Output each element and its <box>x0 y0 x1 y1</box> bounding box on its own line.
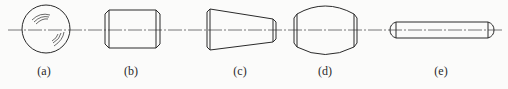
label-a: (a) <box>37 64 50 79</box>
sphere-shape <box>22 5 70 53</box>
label-d: (d) <box>318 64 332 79</box>
rolling-element-shapes-figure: (a) (b) (c) (d) (e) <box>0 0 508 89</box>
shapes-drawing <box>0 0 508 89</box>
cylinder-shape <box>105 10 160 48</box>
label-b: (b) <box>124 64 138 79</box>
label-e: (e) <box>434 64 447 79</box>
truncated-cone-shape <box>207 9 276 50</box>
label-c: (c) <box>233 64 246 79</box>
